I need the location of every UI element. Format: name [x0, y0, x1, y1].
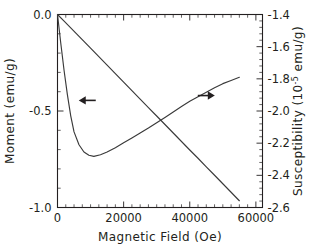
svg-text:Susceptibility (10-5 emu/g): Susceptibility (10-5 emu/g) — [291, 26, 305, 196]
y2-label-suffix: emu/g) — [291, 26, 305, 76]
axis-ticks — [58, 15, 263, 208]
y2-tick-label: -2.0 — [268, 104, 290, 118]
y2-label-exponent: -5 — [291, 76, 300, 85]
x-tick-label: 40000 — [171, 211, 208, 225]
y-axis-label: Moment (emu/g) — [3, 58, 17, 164]
y2-tick-label: -2.2 — [268, 136, 290, 150]
curve-susceptibility — [58, 15, 240, 157]
y2-tick-label: -2.4 — [268, 168, 290, 182]
y2-axis-label: Susceptibility (10-5 emu/g) — [291, 26, 305, 196]
y-tick-label: 0.0 — [33, 8, 51, 22]
y-tick-label: -1.0 — [29, 201, 51, 215]
curve-moment — [58, 15, 240, 201]
y2-tick-label: -2.6 — [268, 201, 290, 215]
left-pointing-arrow — [79, 96, 96, 104]
y2-tick-label: -1.6 — [268, 40, 290, 54]
axis-pointer-arrows — [79, 91, 215, 104]
x-tick-label: 0 — [54, 211, 61, 225]
axis-tick-labels: 02000040000600000.0-0.5-1.0-1.4-1.6-1.8-… — [29, 8, 290, 225]
plot-frame — [58, 15, 263, 208]
plot-canvas: 02000040000600000.0-0.5-1.0-1.4-1.6-1.8-… — [0, 0, 314, 247]
data-curves — [58, 15, 240, 201]
y2-tick-label: -1.4 — [268, 8, 290, 22]
x-tick-label: 20000 — [105, 211, 142, 225]
y2-tick-label: -1.8 — [268, 72, 290, 86]
y-tick-label: -0.5 — [29, 104, 51, 118]
x-axis-label: Magnetic Field (Oe) — [98, 230, 222, 244]
magnetization-figure: 02000040000600000.0-0.5-1.0-1.4-1.6-1.8-… — [0, 0, 314, 247]
y2-label-prefix: Susceptibility (10 — [291, 84, 305, 196]
